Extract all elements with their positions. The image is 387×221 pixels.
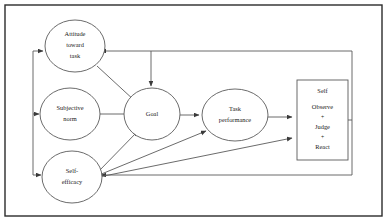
self-efficacy-label-line2: efficacy xyxy=(62,178,83,185)
task-performance-label-line1: Task xyxy=(229,105,242,112)
task-performance-ellipse[interactable] xyxy=(202,89,268,141)
self-box-label-self: Self xyxy=(317,87,328,94)
attitude-label-line2: toward xyxy=(66,41,85,48)
attitude-label-line1: Attitude xyxy=(65,30,86,37)
subjective-norm-label-line1: Subjective xyxy=(57,104,84,111)
node-self-efficacy[interactable]: Self- efficacy xyxy=(42,151,102,203)
attitude-label-line3: task xyxy=(70,52,81,59)
diagram-canvas: Attitude toward task Subjective norm Sel… xyxy=(0,0,387,221)
node-attitude[interactable]: Attitude toward task xyxy=(45,20,105,72)
node-self-box[interactable]: Self Observe + Judge + React xyxy=(297,80,348,160)
subjective-norm-label-line2: norm xyxy=(63,115,77,122)
subjective-norm-circle[interactable] xyxy=(40,88,100,140)
social-cognitive-diagram: Attitude toward task Subjective norm Sel… xyxy=(0,0,387,221)
self-box-label-plus-2: + xyxy=(321,134,324,140)
node-goal[interactable]: Goal xyxy=(124,88,180,140)
self-box-label-react: React xyxy=(315,143,330,150)
task-performance-label-line2: performance xyxy=(219,116,251,123)
self-efficacy-label-line1: Self- xyxy=(66,167,78,174)
goal-label: Goal xyxy=(146,110,159,117)
self-box-label-judge: Judge xyxy=(315,123,330,130)
node-task-performance[interactable]: Task performance xyxy=(202,89,268,141)
self-efficacy-circle[interactable] xyxy=(42,151,102,203)
self-box-label-plus-1: + xyxy=(321,114,324,120)
self-box-label-observe: Observe xyxy=(312,103,333,110)
node-subjective-norm[interactable]: Subjective norm xyxy=(40,88,100,140)
